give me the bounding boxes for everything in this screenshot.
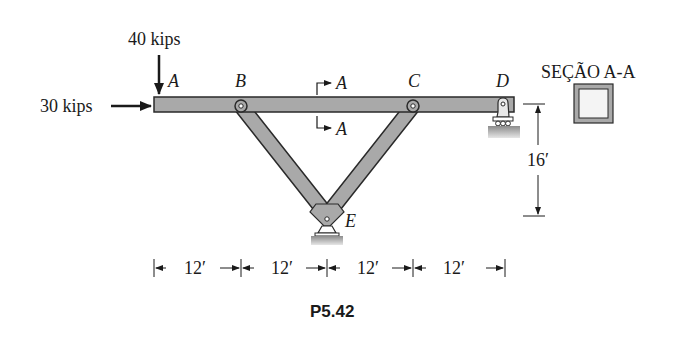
strut-be — [241, 106, 327, 215]
pin-b-icon — [235, 100, 247, 112]
span-4-label: 12′ — [443, 259, 465, 277]
section-marker-bottom-label: A — [336, 120, 347, 138]
span-1-label: 12′ — [184, 259, 206, 277]
point-a-label: A — [168, 72, 179, 90]
truss-diagram — [0, 0, 690, 345]
section-marker-top-label: A — [336, 74, 347, 92]
pin-c-icon — [407, 100, 419, 112]
span-3-label: 12′ — [357, 259, 379, 277]
beam-ad — [154, 97, 514, 112]
section-title: SEÇÃO A-A — [541, 63, 636, 81]
load-40-label: 40 kips — [128, 30, 181, 48]
span-2-label: 12′ — [271, 259, 293, 277]
point-b-label: B — [235, 72, 246, 90]
point-c-label: C — [408, 72, 420, 90]
support-e-icon — [310, 204, 344, 245]
figure-caption: P5.42 — [310, 303, 354, 320]
load-30-label: 30 kips — [40, 97, 93, 115]
point-d-label: D — [496, 72, 509, 90]
point-e-label: E — [345, 212, 356, 230]
height-dimension-label: 16′ — [527, 151, 549, 169]
cross-section-icon — [574, 84, 613, 123]
